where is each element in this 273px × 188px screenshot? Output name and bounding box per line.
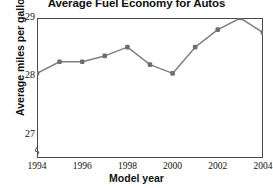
x-tick-label: 1996 [62, 161, 102, 171]
x-tick-label: 2004 [243, 161, 273, 171]
y-tick-label: 28 [13, 69, 35, 80]
x-tick-label: 2000 [153, 161, 193, 171]
data-series-line [37, 18, 263, 158]
plot-area [37, 18, 263, 158]
x-tick-label: 2002 [198, 161, 238, 171]
y-tick-label: 27 [13, 128, 35, 139]
y-tick-label: 29 [13, 11, 35, 22]
chart-title: Average Fuel Economy for Autos [0, 0, 273, 9]
x-axis-label: Model year [0, 172, 273, 184]
axis-break-icon [34, 147, 40, 156]
x-tick-label: 1998 [107, 161, 147, 171]
y-axis-tick-labels: 292827 [9, 18, 35, 158]
chart-container: Average Fuel Economy for Autos Average m… [0, 0, 273, 188]
x-tick-label: 1994 [17, 161, 57, 171]
